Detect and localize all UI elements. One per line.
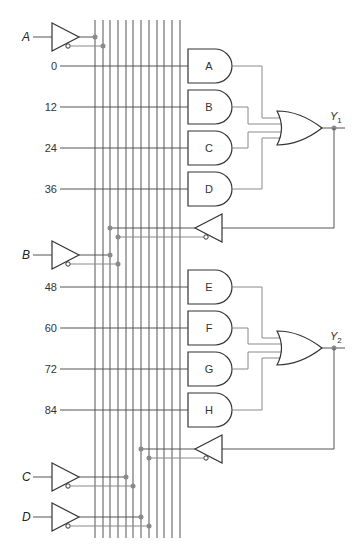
and-gate-e: E — [188, 270, 232, 304]
inversion-bubble-icon — [66, 484, 70, 488]
and-gate-label: G — [205, 363, 214, 375]
or-gates: Y1Y2 — [232, 66, 345, 410]
connection-dot — [124, 475, 129, 480]
connection-dot — [139, 447, 144, 452]
output-label: Y1 — [330, 110, 342, 125]
or-gate-y1: Y1 — [232, 66, 345, 189]
and-gate-d: D — [188, 172, 232, 206]
fuse-number-label: 12 — [45, 101, 57, 113]
connection-dot — [108, 226, 113, 231]
fuse-number-label: 60 — [45, 322, 57, 334]
inversion-bubble-icon — [66, 262, 70, 266]
fuse-number-label: 84 — [45, 404, 57, 416]
or-gate-y2: Y2 — [232, 287, 345, 410]
and-gate-g: G — [188, 352, 232, 386]
and-gate-c: C — [188, 131, 232, 165]
connection-dot — [116, 235, 121, 240]
fuse-number-label: 0 — [51, 60, 57, 72]
connection-dot — [139, 515, 144, 520]
and-gate-f: F — [188, 311, 232, 345]
input-label: C — [22, 470, 31, 484]
logic-circuit-diagram: ABCD 012243648607284 ABCDEFGH Y1Y2 — [0, 0, 363, 554]
and-gate-label: B — [205, 101, 212, 113]
input-label: A — [21, 30, 30, 44]
inversion-bubble-icon — [204, 235, 208, 239]
and-gate-label: C — [205, 142, 213, 154]
inversion-bubble-icon — [66, 44, 70, 48]
input-buffer-b: B — [22, 241, 121, 269]
input-label: B — [22, 248, 30, 262]
and-gate-label: H — [205, 404, 213, 416]
input-buffers: ABCD — [21, 23, 152, 531]
feedback-buffer-2 — [139, 348, 335, 463]
fuse-number-label: 24 — [45, 142, 57, 154]
fuse-number-label: 72 — [45, 363, 57, 375]
inversion-bubble-icon — [204, 456, 208, 460]
and-gate-label: D — [205, 183, 213, 195]
and-gate-label: F — [206, 322, 213, 334]
and-gate-label: E — [205, 281, 212, 293]
input-buffer-d: D — [22, 503, 152, 531]
and-gate-b: B — [188, 90, 232, 124]
connection-dot — [131, 484, 136, 489]
and-gate-h: H — [188, 393, 232, 427]
connection-dot — [108, 253, 113, 258]
and-gate-a: A — [188, 49, 232, 83]
connection-dot — [147, 524, 152, 529]
and-gates: ABCDEFGH — [188, 49, 232, 427]
output-label: Y2 — [330, 330, 342, 345]
input-buffer-a: A — [21, 23, 106, 51]
connection-dot — [147, 456, 152, 461]
fuse-number-label: 36 — [45, 183, 57, 195]
fuse-number-label: 48 — [45, 281, 57, 293]
and-gate-label: A — [205, 60, 213, 72]
connection-dot — [101, 44, 106, 49]
vertical-bus-lines — [95, 20, 180, 538]
connection-dot — [93, 35, 98, 40]
input-label: D — [22, 510, 31, 524]
connection-dot — [116, 262, 121, 267]
inversion-bubble-icon — [66, 524, 70, 528]
